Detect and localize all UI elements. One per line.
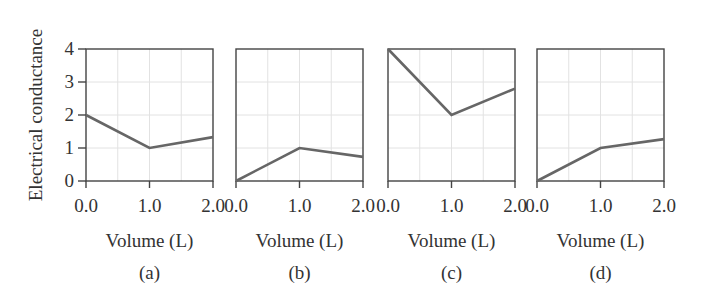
panel-label: (c) [441,262,462,284]
y-tick-label: 4 [65,38,75,59]
y-tick-label: 3 [65,71,75,92]
x-tick-label: 2.0 [652,195,676,216]
x-tick-label: 2.0 [201,195,225,216]
x-tick-label: 1.0 [288,195,312,216]
x-tick-label: 1.0 [138,195,162,216]
x-tick-label: 0.0 [376,195,400,216]
figure: Electrical conductance 0.01.02.001234Vol… [0,0,711,295]
x-tick-label: 1.0 [440,195,464,216]
panel-c: 0.01.02.0Volume (L)(c) [376,49,527,284]
x-tick-label: 2.0 [351,195,375,216]
panel-a: 0.01.02.001234Volume (L)(a) [65,38,225,284]
x-tick-label: 0.0 [74,195,98,216]
y-tick-label: 1 [65,137,75,158]
x-axis-label: Volume (L) [408,230,496,252]
x-axis-label: Volume (L) [256,230,344,252]
x-axis-label: Volume (L) [106,230,194,252]
panel-label: (a) [139,262,160,284]
chart-canvas: 0.01.02.001234Volume (L)(a)0.01.02.0Volu… [0,0,711,295]
panel-label: (b) [288,262,310,284]
panel-label: (d) [589,262,611,284]
y-tick-label: 2 [65,104,75,125]
x-tick-label: 0.0 [224,195,248,216]
x-tick-label: 2.0 [503,195,527,216]
panel-d: 0.01.02.0Volume (L)(d) [525,49,676,284]
y-tick-label: 0 [65,170,75,191]
y-axis-label: Electrical conductance [25,29,47,201]
panel-b: 0.01.02.0Volume (L)(b) [224,49,375,284]
x-tick-label: 0.0 [525,195,549,216]
x-axis-label: Volume (L) [557,230,645,252]
x-tick-label: 1.0 [589,195,613,216]
